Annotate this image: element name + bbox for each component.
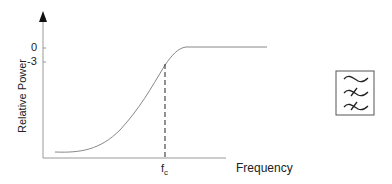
x-axis-label: Frequency	[236, 161, 293, 175]
diagram-canvas	[0, 0, 392, 184]
fc-label: fc	[161, 162, 168, 177]
response-curve	[55, 47, 267, 152]
y-tick-label-0: 0	[31, 41, 37, 53]
filter-wave-icon	[344, 76, 368, 110]
y-axis-arrow-icon	[39, 11, 47, 22]
fc-sub: c	[164, 168, 168, 177]
y-tick-label-minus3: -3	[27, 55, 37, 67]
y-axis-label: Relative Power	[16, 59, 28, 133]
